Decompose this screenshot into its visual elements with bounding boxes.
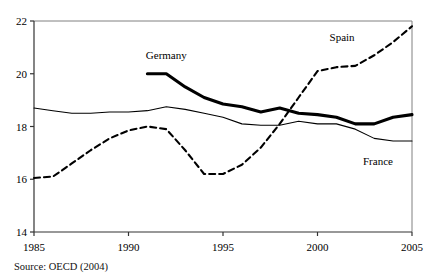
y-tick-label: 18	[16, 121, 28, 133]
x-tick-label: 2000	[307, 241, 330, 253]
series-label-germany: Germany	[146, 49, 187, 61]
x-tick-label: 2005	[401, 241, 424, 253]
x-tick-label: 1995	[212, 241, 235, 253]
y-tick-label: 20	[16, 68, 28, 80]
series-label-france: France	[363, 155, 393, 167]
chart-figure: 141618202219851990199520002005 GermanySp…	[0, 0, 428, 274]
line-chart: 141618202219851990199520002005 GermanySp…	[0, 0, 428, 274]
x-tick-label: 1985	[23, 241, 46, 253]
plot-background	[34, 21, 412, 232]
y-tick-label: 16	[16, 173, 28, 185]
source-note: Source: OECD (2004)	[14, 261, 108, 272]
y-tick-label: 22	[16, 15, 27, 27]
series-label-spain: Spain	[330, 31, 356, 43]
x-tick-label: 1990	[118, 241, 141, 253]
y-tick-label: 14	[16, 226, 28, 238]
